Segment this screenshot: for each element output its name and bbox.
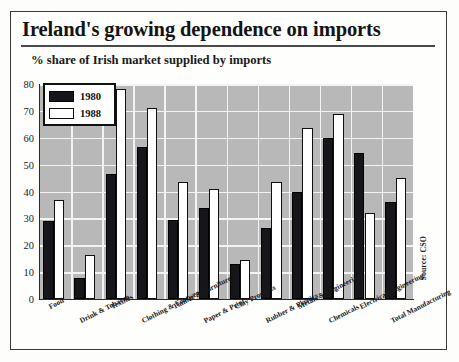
y-axis-tick-label: 10: [14, 267, 38, 278]
bar-1980: [168, 220, 178, 299]
bar-1988: [178, 182, 188, 299]
bar-1988: [333, 114, 343, 299]
bar-1980: [137, 147, 147, 299]
legend-swatch-icon: [49, 108, 74, 119]
y-axis-tick-label: 70: [14, 105, 38, 116]
bar-1980: [74, 278, 84, 300]
bar-1988: [54, 200, 64, 299]
legend-item: 1980: [49, 88, 110, 105]
bar-1988: [365, 213, 375, 299]
bar-group: [195, 84, 226, 299]
bar-1988: [240, 260, 250, 299]
x-axis-tick-label: Food: [47, 296, 65, 311]
bar-group: [289, 84, 320, 299]
bar-group: [227, 84, 258, 299]
bar-1980: [292, 192, 302, 300]
y-axis-tick-label: 20: [14, 240, 38, 251]
bar-1988: [85, 255, 95, 299]
legend-label: 1988: [80, 108, 101, 119]
legend-swatch-icon: [49, 91, 74, 102]
bar-group: [133, 84, 164, 299]
title-divider: [21, 45, 435, 47]
legend-label: 1980: [80, 91, 101, 102]
y-axis-tick-label: 60: [14, 132, 38, 143]
chart-subtitle: % share of Irish market supplied by impo…: [31, 53, 271, 68]
bar-group: [351, 84, 382, 299]
bar-1980: [43, 221, 53, 299]
bar-group: [320, 84, 351, 299]
legend-item: 1988: [49, 105, 110, 122]
chart-legend: 19801988: [43, 83, 116, 126]
y-axis-tick-label: 50: [14, 159, 38, 170]
y-axis-ticks: 01020304050607080: [14, 84, 38, 299]
x-axis-tick-label: Chemicals: [327, 302, 360, 325]
x-axis-labels: FoodDrink & TobaccoTextilesClothing & Fo…: [0, 299, 459, 361]
y-axis-tick-label: 80: [14, 79, 38, 90]
y-axis-tick-label: 30: [14, 213, 38, 224]
bar-group: [258, 84, 289, 299]
bar-1980: [106, 174, 116, 299]
bar-1988: [302, 128, 312, 299]
bar-1988: [147, 108, 157, 299]
y-axis-tick-label: 40: [14, 186, 38, 197]
page-title: Ireland's growing dependence on imports: [22, 18, 432, 41]
bar-group: [164, 84, 195, 299]
bar-1980: [323, 138, 333, 299]
bar-group: [382, 84, 413, 299]
bar-1988: [116, 89, 126, 299]
source-note: Source: CSO: [419, 236, 428, 281]
chart-page: Ireland's growing dependence on imports …: [0, 0, 459, 362]
